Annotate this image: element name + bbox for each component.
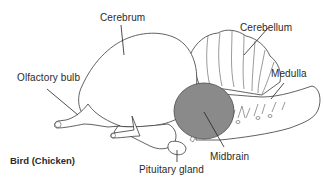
pituitary-gland-label: Pituitary gland (139, 165, 204, 175)
olfactory-bulb-label: Olfactory bulb (17, 73, 80, 83)
medulla-label: Medulla (271, 69, 307, 79)
midbrain-label: Midbrain (210, 152, 249, 162)
diagram-caption: Bird (Chicken) (10, 156, 75, 166)
cerebellum-label: Cerebellum (240, 23, 292, 33)
cerebrum-label: Cerebrum (100, 13, 145, 23)
midbrain-shape (174, 83, 234, 139)
brain-diagram: Cerebrum Cerebellum Olfactory bulb Medul… (0, 0, 324, 182)
